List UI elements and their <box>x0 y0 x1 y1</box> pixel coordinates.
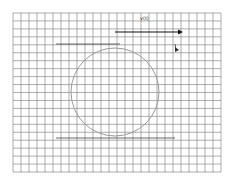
arrow-label: v(t) <box>140 15 149 21</box>
graph-paper-diagram: v(t) <box>0 0 232 181</box>
arrowhead-icon <box>178 30 183 35</box>
grid <box>13 13 221 172</box>
small-arrow-marker <box>175 44 179 52</box>
circle <box>71 48 159 136</box>
